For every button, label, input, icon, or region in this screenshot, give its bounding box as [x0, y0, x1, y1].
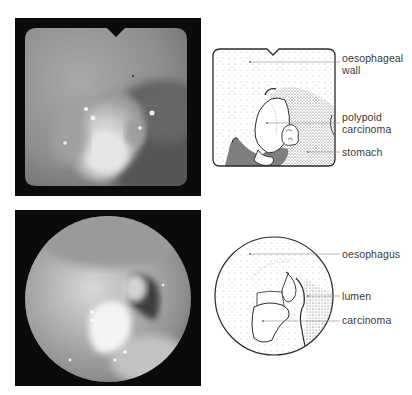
top-line-diagram — [210, 45, 340, 170]
bottom-endoscopic-photo — [15, 210, 201, 386]
label-lumen: lumen — [342, 291, 371, 303]
label-line: oesophagus — [342, 249, 400, 261]
label-oesophageal-wall: oesophageal wall — [342, 53, 403, 76]
top-endoscopic-photo — [15, 18, 201, 196]
label-stomach: stomach — [342, 147, 382, 159]
label-carcinoma: carcinoma — [342, 315, 391, 327]
label-oesophagus: oesophagus — [342, 249, 400, 261]
label-line: stomach — [342, 147, 382, 159]
label-line: polypoid — [342, 112, 391, 124]
label-line: carcinoma — [342, 315, 391, 327]
label-line: oesophageal — [342, 53, 403, 65]
label-line: carcinoma — [342, 124, 391, 136]
label-polypoid-carcinoma: polypoid carcinoma — [342, 112, 391, 135]
bottom-line-diagram — [210, 230, 340, 360]
label-line: lumen — [342, 291, 371, 303]
label-line: wall — [342, 65, 403, 77]
